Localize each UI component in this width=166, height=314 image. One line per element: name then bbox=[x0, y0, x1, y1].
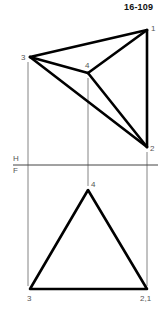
top-view bbox=[30, 30, 147, 147]
front-view bbox=[30, 190, 147, 289]
front-triangle bbox=[30, 190, 147, 289]
label-point-1-top: 1 bbox=[151, 25, 155, 33]
label-f: F bbox=[13, 167, 18, 175]
label-h: H bbox=[13, 155, 19, 163]
label-point-4-front: 4 bbox=[91, 181, 95, 189]
orthographic-drawing bbox=[0, 0, 166, 314]
label-point-3-front: 3 bbox=[27, 295, 31, 303]
edge-3-2 bbox=[30, 57, 147, 147]
label-point-4-top: 4 bbox=[85, 62, 89, 70]
label-point-3-top: 3 bbox=[21, 54, 25, 62]
projection-lines bbox=[28, 62, 147, 286]
label-point-2-top: 2 bbox=[150, 145, 154, 153]
label-point-2-1-front: 2,1 bbox=[140, 295, 151, 303]
